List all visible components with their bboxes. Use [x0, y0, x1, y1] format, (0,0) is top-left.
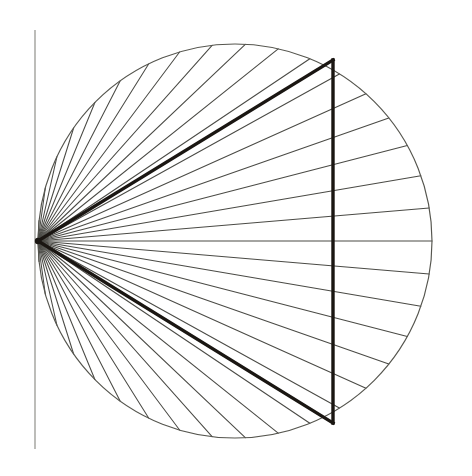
ray-32 [38, 241, 95, 379]
ray-14 [38, 118, 389, 241]
ray-7 [38, 52, 180, 241]
ray-10 [38, 49, 278, 241]
ray-23 [38, 241, 366, 388]
ray-11 [38, 59, 310, 241]
apex-point [35, 238, 41, 244]
ray-29 [38, 241, 180, 430]
ray-20 [38, 241, 421, 306]
ray-17 [38, 208, 429, 241]
ray-26 [38, 241, 278, 433]
ray-24 [38, 241, 339, 408]
ray-fan-group [38, 44, 432, 437]
heavy-upper-ray [38, 60, 333, 241]
geometry-diagram [0, 0, 472, 476]
ray-25 [38, 241, 310, 423]
ray-13 [38, 94, 366, 241]
heavy-lower-ray [38, 241, 333, 423]
ray-4 [38, 103, 95, 241]
ray-15 [38, 145, 407, 241]
figure-canvas [0, 0, 472, 476]
ray-16 [38, 176, 421, 241]
ray-22 [38, 241, 389, 364]
ray-21 [38, 241, 407, 337]
ray-12 [38, 74, 339, 241]
ray-19 [38, 241, 429, 274]
